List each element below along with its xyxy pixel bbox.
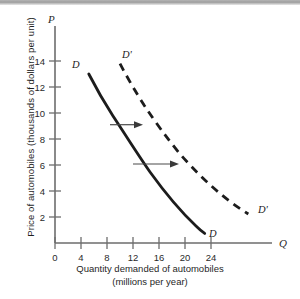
y-axis-title-text: Price of automobiles (thousands of dolla… <box>25 17 36 237</box>
curve-label-d-bottom: D <box>208 228 217 239</box>
y-axis-title: Price of automobiles (thousands of dolla… <box>20 2 38 252</box>
x-axis-title: Quantity demanded of automobiles (millio… <box>30 262 270 288</box>
y-tick-label-8: 8 <box>40 134 45 145</box>
x-axis-title-line1: Quantity demanded of automobiles <box>30 262 270 275</box>
curve-label-d-prime-bottom: D' <box>257 204 269 215</box>
demand-curve-d <box>89 74 205 233</box>
y-tick-label-4: 4 <box>40 186 45 197</box>
y-tick-label-6: 6 <box>40 160 45 171</box>
shift-arrow-lower <box>133 161 179 168</box>
x-axis-title-line2: (millions per year) <box>30 275 270 288</box>
y-tick-label-2: 2 <box>40 212 45 223</box>
demand-curve-d-prime <box>120 64 248 214</box>
x-axis-variable-label: Q <box>279 237 287 249</box>
y-axis-variable-label: P <box>47 13 55 25</box>
demand-curve-chart: 14 12 10 8 6 4 2 0 4 8 12 16 20 24 P Q <box>0 0 300 299</box>
curve-label-d-prime-top: D' <box>121 49 133 60</box>
shift-arrow-upper <box>110 121 143 128</box>
figure-root: 14 12 10 8 6 4 2 0 4 8 12 16 20 24 P Q <box>0 0 300 299</box>
curve-label-d-top: D <box>71 59 80 70</box>
